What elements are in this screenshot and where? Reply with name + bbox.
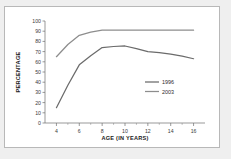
series-line-2003 — [56, 30, 193, 57]
line-chart-plot: 0102030405060708090100 PERCENTAGE 468101… — [5, 7, 219, 147]
legend-label-1996: 1996 — [162, 79, 174, 85]
y-tick-label: 30 — [35, 89, 41, 95]
y-tick-label: 40 — [35, 79, 41, 85]
x-tick-label: 4 — [55, 128, 58, 134]
y-tick-label: 10 — [35, 110, 41, 116]
series-line-1996 — [56, 46, 193, 108]
x-tick-label: 16 — [191, 128, 197, 134]
y-tick-label: 70 — [35, 49, 41, 55]
x-tick-label: 14 — [168, 128, 174, 134]
x-axis-title: AGE (IN YEARS) — [101, 135, 148, 141]
y-tick-label: 90 — [35, 28, 41, 34]
y-tick-label: 50 — [35, 69, 41, 75]
x-axis: 46810121416 AGE (IN YEARS) — [45, 123, 205, 141]
legend-label-2003: 2003 — [162, 89, 174, 95]
x-tick-label: 10 — [122, 128, 128, 134]
y-tick-label: 80 — [35, 38, 41, 44]
y-axis-title: PERCENTAGE — [15, 52, 21, 93]
y-tick-label: 60 — [35, 59, 41, 65]
y-axis: 0102030405060708090100 PERCENTAGE — [15, 18, 45, 126]
data-series-group — [56, 30, 193, 108]
y-axis-ticks: 0102030405060708090100 — [32, 18, 45, 126]
y-tick-label: 20 — [35, 100, 41, 106]
chart-panel: 0102030405060708090100 PERCENTAGE 468101… — [4, 6, 220, 148]
x-tick-label: 8 — [101, 128, 104, 134]
chart-figure: 0102030405060708090100 PERCENTAGE 468101… — [0, 0, 231, 159]
x-tick-label: 12 — [145, 128, 151, 134]
x-tick-label: 6 — [78, 128, 81, 134]
y-tick-label: 100 — [32, 18, 41, 24]
y-tick-label: 0 — [38, 120, 41, 126]
x-axis-ticks: 46810121416 — [55, 123, 197, 134]
chart-legend: 19962003 — [145, 79, 174, 95]
